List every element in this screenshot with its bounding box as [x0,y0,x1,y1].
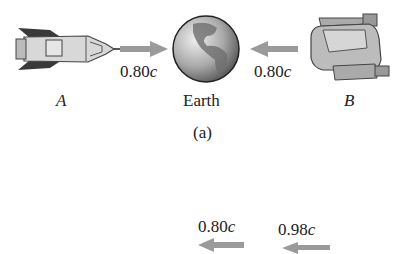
arrow-left-icon [196,238,246,252]
rocket-a [10,24,122,74]
label-a: A [56,92,66,109]
speed-label-b1: 0.80c [198,218,235,235]
panel-a-caption: (a) [193,124,212,141]
arrow-left-icon [280,242,330,254]
speed-label-b: 0.80c [254,63,291,80]
arrow-left-icon [248,40,298,58]
speed-label-a: 0.80c [120,63,157,80]
label-earth: Earth [183,92,220,109]
speed-label-b2: 0.98c [278,221,315,238]
spaceship-b [305,8,391,86]
label-b: B [344,92,354,109]
arrow-right-icon [120,40,170,58]
earth-globe [171,14,241,84]
